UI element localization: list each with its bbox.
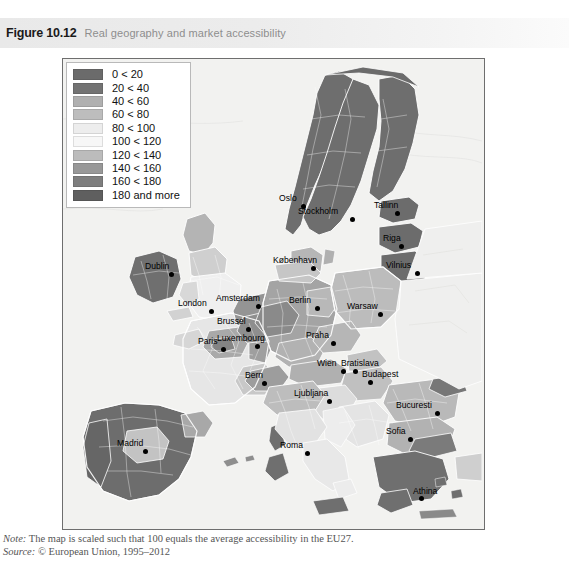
legend-row: 100 < 120: [73, 135, 180, 148]
city-label: Paris: [198, 337, 218, 346]
legend-label: 100 < 120: [112, 136, 161, 147]
city-dot: [327, 399, 332, 404]
legend-row: 20 < 40: [73, 81, 180, 94]
legend-row: 60 < 80: [73, 108, 180, 121]
city-label: Brussel: [217, 317, 246, 326]
map-frame: 0 < 2020 < 4040 < 6060 < 8080 < 100100 <…: [62, 58, 485, 530]
city-label: Bratislava: [341, 359, 379, 368]
legend-row: 180 and more: [73, 189, 180, 202]
city-label: Berlin: [289, 296, 311, 305]
map-legend: 0 < 2020 < 4040 < 6060 < 8080 < 100100 <…: [66, 62, 191, 208]
legend-label: 60 < 80: [112, 109, 149, 120]
legend-label: 120 < 140: [112, 150, 161, 161]
city-dot: [311, 266, 316, 271]
city-label: Athina: [413, 487, 437, 496]
legend-row: 160 < 180: [73, 175, 180, 188]
legend-swatch: [73, 109, 103, 120]
city-dot: [315, 306, 320, 311]
city-label: Amsterdam: [216, 294, 260, 303]
city-dot: [221, 347, 226, 352]
city-label: Bern: [245, 371, 263, 380]
city-dot: [399, 244, 404, 249]
legend-swatch: [73, 136, 103, 147]
city-label: Vilnius: [386, 261, 411, 270]
city-dot: [169, 272, 174, 277]
caption-source-text: © European Union, 1995–2012: [35, 546, 170, 557]
legend-swatch: [73, 176, 103, 187]
city-dot: [331, 341, 336, 346]
city-dot: [408, 437, 413, 442]
city-dot: [305, 451, 310, 456]
city-label: Madrid: [117, 439, 143, 448]
city-dot: [255, 344, 260, 349]
legend-label: 0 < 20: [112, 69, 143, 80]
legend-swatch: [73, 150, 103, 161]
city-label: Ljubljana: [294, 389, 328, 398]
city-dot: [419, 496, 424, 501]
figure-header-band: Figure 10.12 Real geography and market a…: [0, 18, 569, 48]
city-dot: [341, 369, 346, 374]
caption-source-label: Source:: [3, 546, 35, 557]
city-label: Luxembourg: [217, 334, 265, 343]
legend-label: 140 < 160: [112, 163, 161, 174]
city-label: London: [178, 299, 207, 308]
legend-swatch: [73, 69, 103, 80]
city-label: Roma: [280, 441, 303, 450]
city-label: Dublin: [145, 262, 169, 271]
legend-rows: 0 < 2020 < 4040 < 6060 < 8080 < 100100 <…: [73, 68, 180, 202]
city-label: Wien: [317, 359, 337, 368]
caption-note-line: Note: The map is scaled such that 100 eq…: [3, 533, 563, 546]
legend-swatch: [73, 123, 103, 134]
city-dot: [368, 380, 373, 385]
caption-note-label: Note:: [3, 533, 26, 544]
legend-swatch: [73, 96, 103, 107]
city-label: Tallinn: [374, 201, 398, 210]
legend-swatch: [73, 163, 103, 174]
legend-swatch: [73, 190, 103, 201]
city-label: Warsaw: [347, 302, 378, 311]
city-dot: [256, 304, 261, 309]
city-label: København: [273, 256, 317, 265]
city-dot: [378, 312, 383, 317]
city-label: Bucuresti: [396, 401, 432, 410]
city-dot: [353, 369, 358, 374]
city-dot: [395, 211, 400, 216]
legend-row: 0 < 20: [73, 68, 180, 81]
city-label: Praha: [306, 331, 329, 340]
city-label: Sofia: [386, 427, 406, 436]
legend-label: 20 < 40: [112, 83, 149, 94]
city-dot: [209, 309, 214, 314]
legend-row: 140 < 160: [73, 162, 180, 175]
city-label: Oslo: [279, 194, 297, 203]
figure-number: Figure 10.12: [6, 26, 77, 40]
figure-title: Real geography and market accessibility: [85, 27, 286, 39]
caption-source-line: Source: © European Union, 1995–2012: [3, 546, 563, 559]
city-dot: [415, 271, 420, 276]
legend-row: 120 < 140: [73, 148, 180, 161]
city-dot: [262, 381, 267, 386]
city-dot: [246, 327, 251, 332]
city-label: Riga: [383, 234, 401, 243]
city-dot: [435, 411, 440, 416]
legend-label: 40 < 60: [112, 96, 149, 107]
city-dot: [143, 449, 148, 454]
legend-row: 40 < 60: [73, 95, 180, 108]
city-label: Budapest: [362, 370, 398, 379]
legend-label: 80 < 100: [112, 123, 155, 134]
legend-label: 160 < 180: [112, 176, 161, 187]
legend-row: 80 < 100: [73, 122, 180, 135]
figure-caption: Note: The map is scaled such that 100 eq…: [3, 533, 563, 558]
legend-label: 180 and more: [112, 190, 180, 201]
legend-swatch: [73, 83, 103, 94]
caption-note-text: The map is scaled such that 100 equals t…: [26, 533, 353, 544]
city-label: Stockholm: [298, 207, 338, 216]
city-dot: [350, 217, 355, 222]
